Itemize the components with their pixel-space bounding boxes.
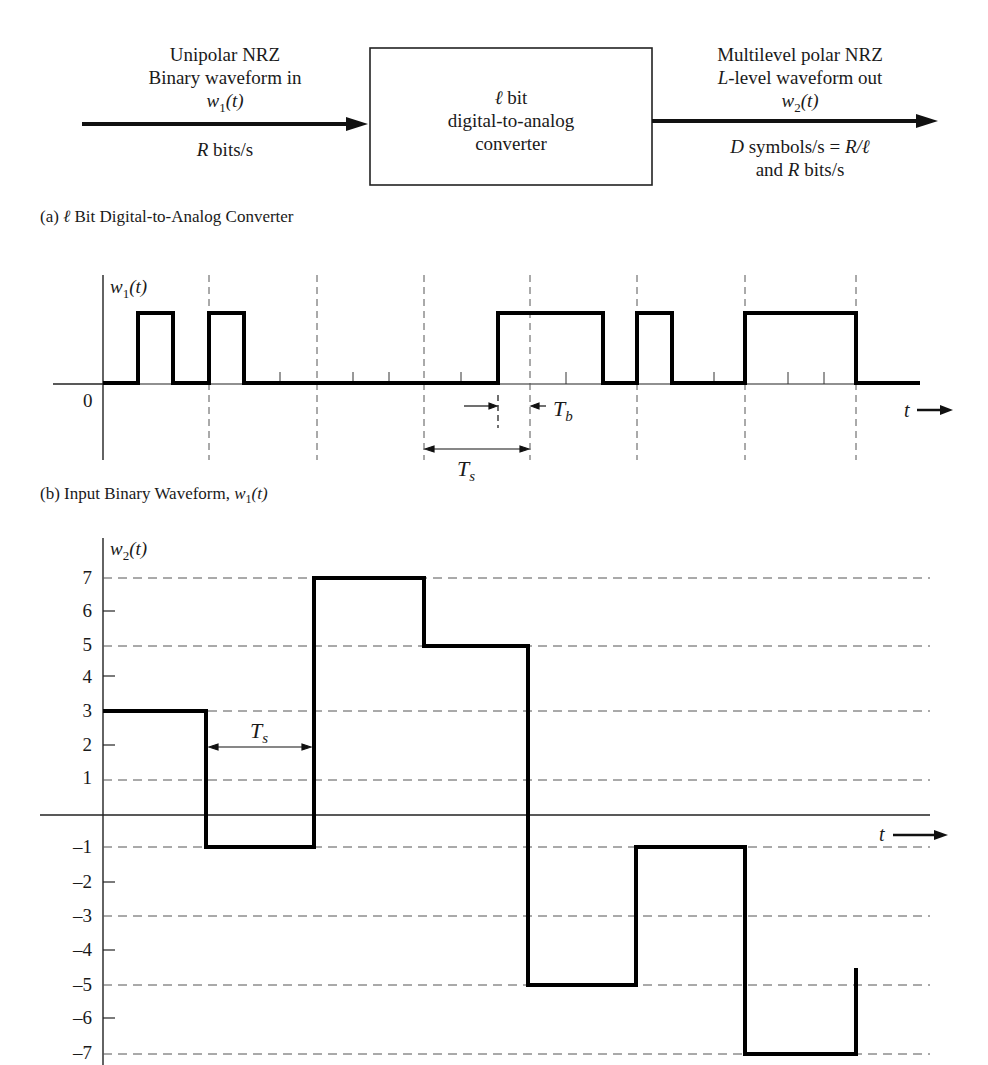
ytick-neg2: –2 bbox=[52, 871, 92, 893]
ytick-2: 2 bbox=[52, 734, 92, 756]
output-rate: D symbols/s = R/ℓ and R bits/s bbox=[670, 135, 930, 181]
w2-grid-dashed bbox=[103, 578, 930, 1054]
t-arrow-bottom bbox=[893, 830, 948, 840]
input-arrow bbox=[82, 117, 368, 131]
w1-zero-label: 0 bbox=[83, 389, 93, 412]
w1-waveform bbox=[103, 313, 920, 383]
input-label-line1: Unipolar NRZ bbox=[110, 43, 340, 66]
output-signal-name: w2(t) bbox=[670, 89, 930, 119]
ytick-4: 4 bbox=[52, 666, 92, 688]
dac-label-line1: ℓ bit bbox=[370, 86, 652, 109]
w2-axis-label: w2(t) bbox=[110, 537, 147, 567]
ytick-neg3: –3 bbox=[52, 905, 92, 927]
ytick-neg1: –1 bbox=[52, 836, 92, 858]
ytick-neg6: –6 bbox=[52, 1007, 92, 1029]
ytick-6: 6 bbox=[52, 600, 92, 622]
input-signal-name: w1(t) bbox=[110, 89, 340, 119]
t-label-bottom: t bbox=[879, 823, 885, 846]
ytick-1: 1 bbox=[52, 767, 92, 789]
output-label: Multilevel polar NRZ L-level waveform ou… bbox=[670, 43, 930, 119]
dac-label-line3: converter bbox=[370, 132, 652, 155]
ytick-7: 7 bbox=[52, 567, 92, 589]
ytick-3: 3 bbox=[52, 700, 92, 722]
tb-label: Tb bbox=[553, 397, 573, 428]
output-label-line1: Multilevel polar NRZ bbox=[670, 43, 930, 66]
t-arrow-top bbox=[917, 405, 953, 415]
w2-axes bbox=[40, 538, 930, 1065]
input-rate: R bits/s bbox=[110, 138, 340, 161]
dac-label-line2: digital-to-analog bbox=[370, 109, 652, 132]
w1-axes bbox=[53, 275, 920, 460]
ts-indicator-top bbox=[425, 446, 529, 452]
ytick-neg4: –4 bbox=[52, 939, 92, 961]
ytick-neg7: –7 bbox=[52, 1042, 92, 1064]
t-label-top: t bbox=[904, 399, 910, 422]
caption-b: (b) Input Binary Waveform, w1(t) bbox=[40, 484, 268, 507]
input-label-line2: Binary waveform in bbox=[110, 66, 340, 89]
ytick-neg5: –5 bbox=[52, 974, 92, 996]
dac-label: ℓ bit digital-to-analog converter bbox=[370, 86, 652, 155]
caption-a: (a) ℓ Bit Digital-to-Analog Converter bbox=[40, 207, 294, 227]
input-label: Unipolar NRZ Binary waveform in w1(t) bbox=[110, 43, 340, 119]
tb-indicator bbox=[464, 395, 546, 428]
output-label-line2: L-level waveform out bbox=[670, 66, 930, 89]
w1-symbol-boundaries bbox=[209, 275, 856, 460]
w1-axis-label: w1(t) bbox=[110, 275, 147, 305]
w2-waveform bbox=[103, 578, 856, 1054]
ytick-5: 5 bbox=[52, 634, 92, 656]
ts-label-bottom: Ts bbox=[250, 719, 268, 750]
ts-label-top: Ts bbox=[457, 457, 475, 488]
